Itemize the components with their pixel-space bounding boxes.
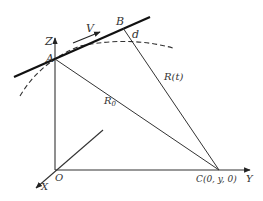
geometry-diagram: Z A V B d R(t) R0 O X C(0, y, 0) Y <box>0 0 263 201</box>
range-t-label: R(t) <box>163 71 183 82</box>
x-axis-label: X <box>40 181 49 192</box>
y-axis-label: Y <box>246 173 254 184</box>
range-0-label: R0 <box>103 95 117 108</box>
point-a-label: A <box>45 52 54 65</box>
velocity-label: V <box>86 22 95 35</box>
distance-label: d <box>132 28 139 41</box>
point-c-label: C(0, y, 0) <box>196 174 237 184</box>
r0-line <box>55 59 219 170</box>
trajectory-line <box>14 17 150 77</box>
point-b-label: B <box>115 15 124 28</box>
z-axis-label: Z <box>44 35 53 48</box>
x-axis <box>36 130 103 188</box>
rt-line <box>123 28 219 170</box>
origin-label: O <box>55 172 63 183</box>
